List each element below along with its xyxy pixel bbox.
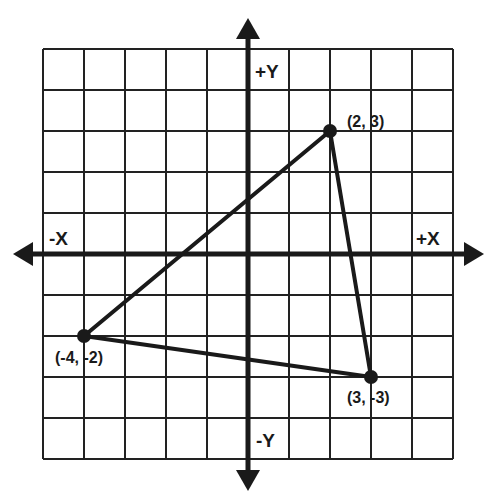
vertex-point-3-neg3 (364, 370, 378, 384)
vertex-label-neg4-neg2: (-4, -2) (55, 349, 103, 366)
neg-y-label: -Y (256, 430, 275, 451)
triangle: (2, 3) (-4, -2) (3, -3) (55, 113, 390, 406)
x-axis-right-arrow-icon (464, 242, 484, 266)
vertex-point-2-3 (323, 124, 337, 138)
pos-x-label: +X (416, 228, 440, 249)
vertex-label-3-neg3: (3, -3) (347, 389, 390, 406)
x-axis-left-arrow-icon (13, 242, 33, 266)
pos-y-label: +Y (255, 61, 279, 82)
y-axis-bottom-arrow-icon (236, 470, 260, 491)
coordinate-plane-diagram: -X +X +Y -Y (2, 3) (-4, -2) (3, -3) (0, 0, 494, 502)
neg-x-label: -X (49, 228, 68, 249)
y-axis-top-arrow-icon (236, 18, 260, 39)
vertex-label-2-3: (2, 3) (347, 113, 384, 130)
vertex-point-neg4-neg2 (77, 329, 91, 343)
